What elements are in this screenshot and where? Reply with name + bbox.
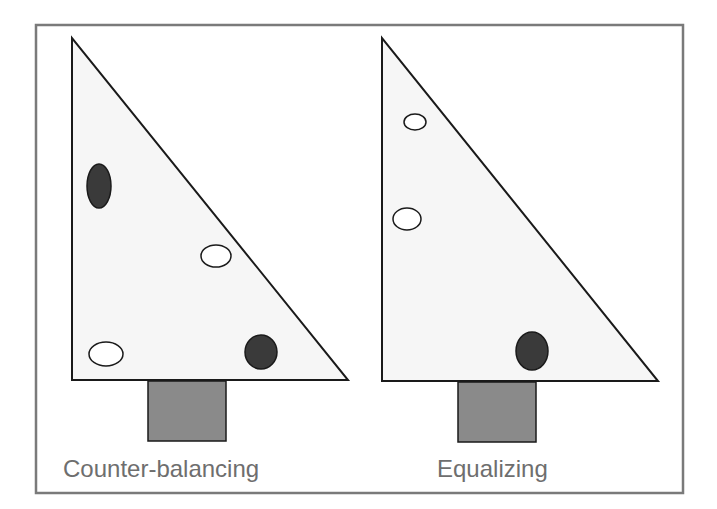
stand-block — [148, 381, 226, 441]
filled-object-icon — [245, 335, 277, 369]
filled-object-icon — [516, 332, 548, 370]
hollow-object-icon — [89, 342, 123, 366]
hollow-object-icon — [404, 114, 426, 130]
hollow-object-icon — [393, 208, 421, 230]
balance-diagram: Counter-balancing Equalizing — [0, 0, 717, 509]
panel-label: Equalizing — [437, 455, 548, 482]
hollow-object-icon — [201, 245, 231, 267]
filled-object-icon — [87, 164, 111, 208]
panel-label: Counter-balancing — [63, 455, 259, 482]
stand-block — [458, 382, 536, 442]
